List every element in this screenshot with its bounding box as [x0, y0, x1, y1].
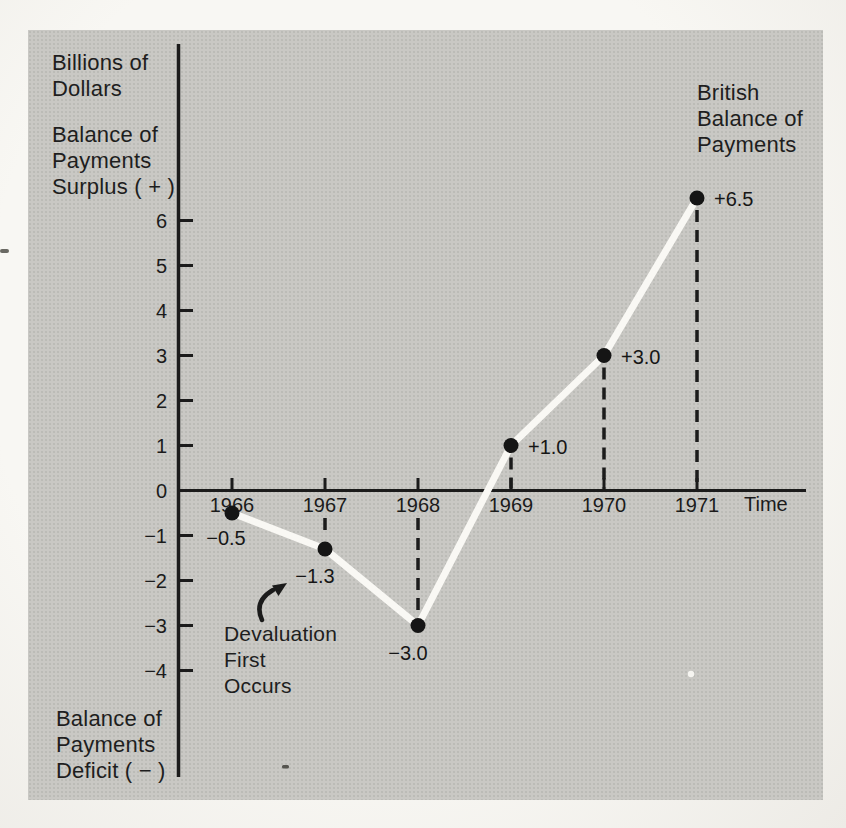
data-point-value-label: +3.0: [621, 346, 660, 368]
y-tick-label: 6: [156, 210, 167, 232]
time-axis-label: Time: [744, 493, 788, 515]
y-tick-label: −4: [144, 660, 167, 682]
y-axis-surplus-label: Balance of Payments Surplus ( + ): [52, 122, 175, 200]
y-tick-label: −1: [144, 525, 167, 547]
scan-speck-left-margin: [0, 249, 9, 253]
scan-speck-panel: [282, 765, 289, 769]
data-point: [411, 618, 426, 633]
series-title: British Balance of Payments: [697, 80, 803, 158]
data-point-value-label: −3.0: [388, 642, 427, 664]
y-tick-label: 3: [156, 345, 167, 367]
y-tick-label: −2: [144, 570, 167, 592]
y-axis-deficit-label: Balance of Payments Deficit ( − ): [56, 706, 166, 784]
y-tick-label: 5: [156, 255, 167, 277]
data-point: [318, 542, 333, 557]
data-point-labels-group: −0.5−1.3−3.0+1.0+3.0+6.5: [206, 188, 753, 664]
y-tick-label: −3: [144, 615, 167, 637]
data-point-value-label: +6.5: [714, 188, 753, 210]
y-tick-label: 1: [156, 435, 167, 457]
data-point: [504, 438, 519, 453]
x-tick-label: 1971: [675, 494, 720, 516]
y-tick-label: 0: [156, 480, 167, 502]
y-axis-unit-label: Billions of Dollars: [52, 50, 148, 102]
data-point-value-label: −1.3: [295, 565, 334, 587]
x-tick-label: 1967: [303, 494, 348, 516]
scanned-figure-page: 6543210−1−2−3−4 196619671968196919701971…: [0, 0, 846, 828]
data-point-value-label: −0.5: [206, 527, 245, 549]
y-tick-label: 2: [156, 390, 167, 412]
droplines: [325, 210, 697, 614]
scan-artifact-dot: [688, 671, 694, 677]
series-line: [232, 198, 697, 626]
x-axis-ticks: 196619671968196919701971: [210, 478, 720, 516]
devaluation-annotation: Devaluation First Occurs: [224, 621, 337, 699]
x-tick-label: 1969: [489, 494, 534, 516]
y-tick-label: 4: [156, 300, 167, 322]
x-tick-label: 1968: [396, 494, 441, 516]
data-point: [225, 506, 240, 521]
data-point: [690, 191, 705, 206]
data-point: [597, 348, 612, 363]
annotation-arrow: [259, 590, 273, 620]
series-line-group: [232, 198, 697, 626]
data-point-value-label: +1.0: [528, 436, 567, 458]
x-tick-label: 1970: [582, 494, 627, 516]
y-axis-ticks: 6543210−1−2−3−4: [144, 210, 193, 682]
